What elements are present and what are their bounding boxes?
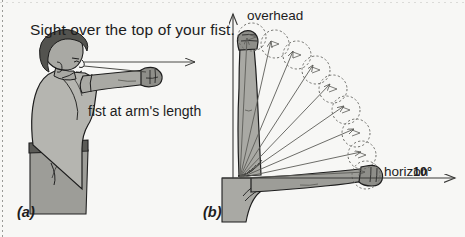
- fist-tick-70: [293, 52, 301, 58]
- fist-fan-diagram: [222, 14, 455, 222]
- ten-degree-annotation: 10°: [413, 166, 432, 179]
- person-sighting-over-fist: [29, 29, 195, 214]
- fist-tick-20: [358, 152, 366, 158]
- panel-b-label: (b): [203, 205, 222, 220]
- fist-tick-60: [312, 67, 320, 73]
- sight-line-lower: [84, 66, 146, 72]
- fist-circle-60: [302, 56, 330, 84]
- fist-tick-80: [271, 41, 279, 47]
- fist-tick-50: [329, 86, 337, 92]
- mouth-shape: [76, 71, 82, 72]
- fist-circle-20: [348, 141, 376, 169]
- fist-shape: [141, 67, 162, 86]
- fist-at-arms-length-caption: fist at arm's length: [88, 104, 201, 118]
- fist-circle-70: [283, 41, 311, 69]
- fist-circle-40: [332, 96, 360, 124]
- panel-a-title: Sight over the top of your fist.: [30, 22, 235, 38]
- fist-circle-80: [261, 30, 289, 58]
- fist-tick-40: [342, 107, 350, 113]
- fist-circle-50: [319, 75, 347, 103]
- fist-tick-30: [352, 130, 360, 136]
- overhead-axis-label: overhead: [247, 9, 303, 23]
- figure-page: Sight over the top of your fist. fist at…: [0, 0, 465, 237]
- panel-a-label: (a): [17, 205, 35, 220]
